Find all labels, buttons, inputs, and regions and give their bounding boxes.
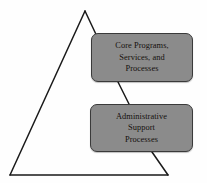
administrative-support-line-3: Processes bbox=[125, 134, 158, 146]
core-programs-line-1: Core Programs, bbox=[115, 40, 168, 52]
triangle-right-edge-lower bbox=[152, 152, 168, 175]
triangle-right-edge-middle bbox=[118, 82, 129, 104]
core-programs-line-3: Processes bbox=[125, 63, 158, 75]
triangle-left-edge bbox=[10, 11, 85, 175]
administrative-support-line-2: Support bbox=[128, 122, 155, 134]
core-programs-box: Core Programs, Services, and Processes bbox=[91, 33, 193, 82]
core-programs-line-2: Services, and bbox=[119, 52, 164, 64]
pyramid-process-diagram: Core Programs, Services, and Processes A… bbox=[0, 0, 207, 183]
administrative-support-box: Administrative Support Processes bbox=[90, 104, 193, 152]
triangle-outline-svg bbox=[0, 0, 207, 183]
administrative-support-line-1: Administrative bbox=[116, 111, 167, 123]
